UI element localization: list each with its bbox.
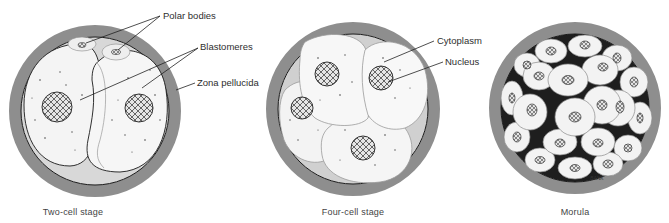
nucleus bbox=[369, 66, 393, 90]
embryo-diagram: BANK bbox=[0, 0, 669, 223]
nucleus-left bbox=[42, 92, 72, 122]
label-cytoplasm: Cytoplasm bbox=[437, 36, 482, 46]
label-blastomeres: Blastomeres bbox=[200, 42, 253, 52]
label-nucleus: Nucleus bbox=[445, 57, 479, 67]
artist-signature: BANK bbox=[590, 175, 604, 181]
label-polar-bodies: Polar bodies bbox=[163, 11, 216, 21]
label-zona-pellucida: Zona pellucida bbox=[197, 78, 259, 88]
four-cell-embryo bbox=[272, 28, 443, 190]
nucleus bbox=[315, 62, 339, 86]
caption-four-cell-stage: Four-cell stage bbox=[322, 208, 385, 217]
nucleus-right bbox=[125, 94, 153, 122]
caption-two-cell-stage: Two-cell stage bbox=[43, 208, 103, 217]
morula-embryo: BANK bbox=[495, 28, 655, 188]
nucleus bbox=[291, 97, 313, 119]
nucleus bbox=[351, 136, 375, 160]
two-cell-embryo bbox=[15, 16, 198, 191]
caption-morula: Morula bbox=[561, 208, 590, 217]
